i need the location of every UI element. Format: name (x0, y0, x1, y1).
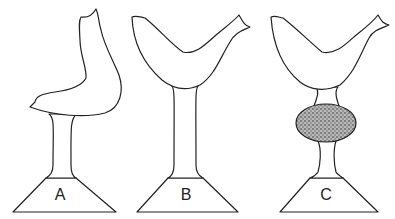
bird-b (132, 15, 250, 89)
bird-a (30, 9, 121, 116)
label-c: C (320, 186, 332, 203)
label-a: A (55, 186, 66, 203)
diagram-canvas: A B C (0, 0, 395, 219)
stippled-knob-c (296, 104, 356, 142)
bird-c (271, 15, 389, 89)
stem-b (168, 86, 203, 178)
figure-a: A (13, 9, 121, 212)
figure-b: B (132, 15, 250, 212)
upper-neck-c (314, 87, 339, 106)
figure-c: C (271, 15, 389, 212)
stem-a (46, 114, 77, 178)
lower-neck-c (310, 141, 343, 178)
label-b: B (181, 186, 192, 203)
